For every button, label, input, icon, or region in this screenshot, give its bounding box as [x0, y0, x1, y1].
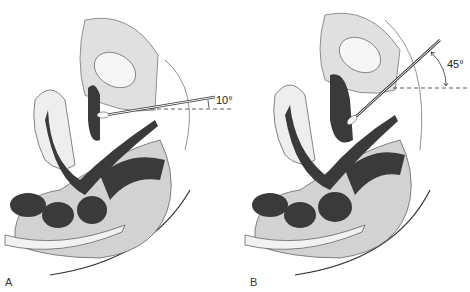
angle-label-a: 10°: [216, 94, 233, 106]
angle-label-b: 45°: [447, 58, 464, 70]
anatomy-illustration-b: [235, 0, 470, 292]
swab-tip-icon: [97, 112, 109, 118]
anatomy-illustration-a: [0, 0, 235, 292]
panel-a: 10° A: [0, 0, 235, 292]
panel-label-b: B: [250, 276, 257, 288]
panel-b: 45° B: [235, 0, 470, 292]
panel-label-a: A: [5, 276, 12, 288]
